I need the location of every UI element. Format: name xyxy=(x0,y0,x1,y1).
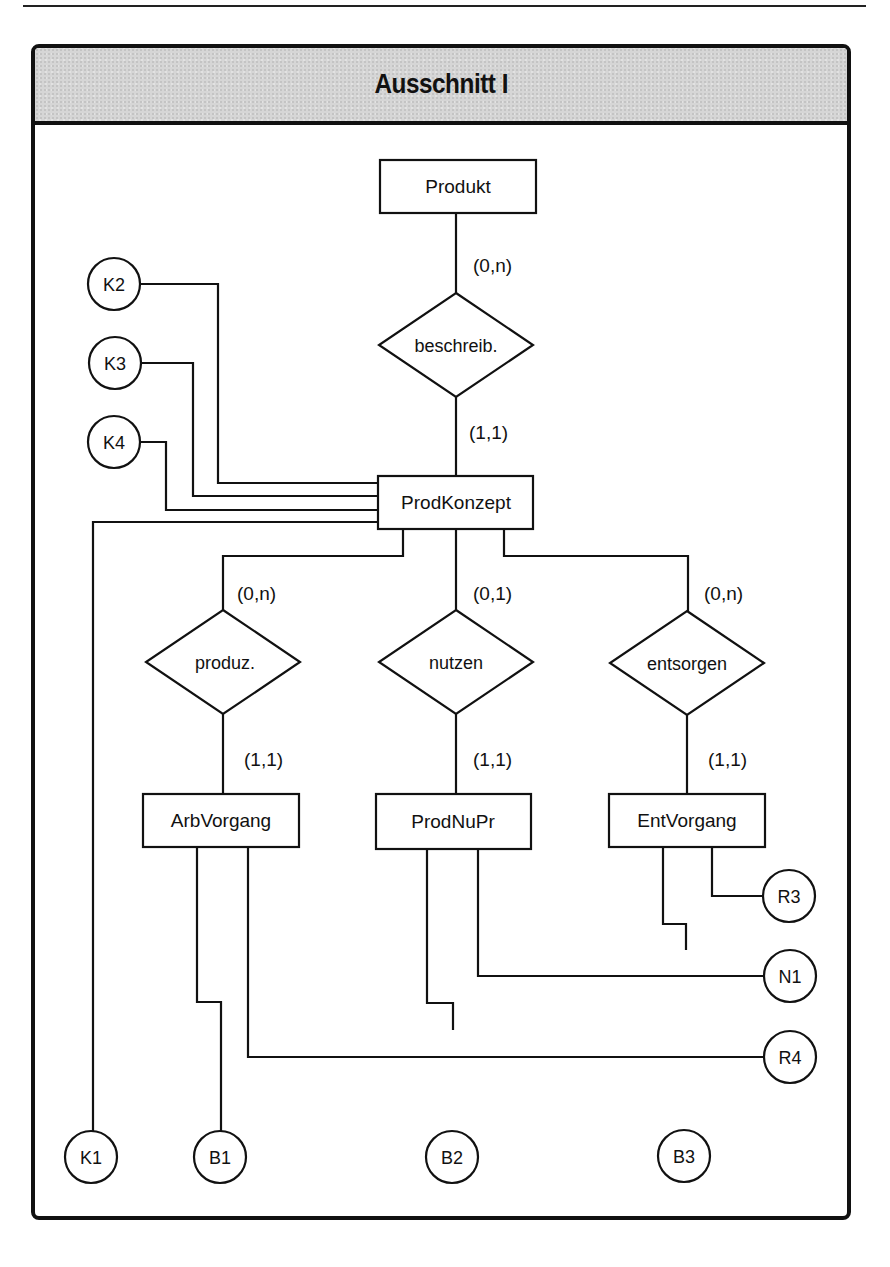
attributes: K1 K2 K3 K4 B1 B2 B3 R3 xyxy=(65,258,816,1183)
relationship-nutzen[interactable]: nutzen xyxy=(379,610,533,714)
cardinality-label: (1,1) xyxy=(244,749,283,770)
connector-b1 xyxy=(197,847,221,1131)
entity-prodkonzept[interactable]: ProdKonzept xyxy=(378,476,533,529)
connector-k4 xyxy=(140,442,378,510)
cardinality-label: (0,n) xyxy=(237,583,276,604)
attribute-label: B2 xyxy=(441,1148,463,1168)
relationship-label: nutzen xyxy=(429,653,483,673)
attribute-label: R4 xyxy=(778,1048,801,1068)
attribute-n1[interactable]: N1 xyxy=(764,950,816,1002)
attribute-label: K3 xyxy=(104,354,126,374)
attribute-k3[interactable]: K3 xyxy=(89,337,141,389)
connector-k2 xyxy=(140,284,378,483)
relationship-produz[interactable]: produz. xyxy=(146,610,300,714)
attribute-label: K2 xyxy=(103,275,125,295)
attribute-b3[interactable]: B3 xyxy=(658,1130,710,1182)
relationship-beschreib[interactable]: beschreib. xyxy=(379,293,533,397)
attribute-b1[interactable]: B1 xyxy=(194,1131,246,1183)
entity-produkt[interactable]: Produkt xyxy=(380,160,536,213)
cardinality-label: (0,n) xyxy=(473,255,512,276)
connector-n1 xyxy=(478,849,764,976)
cardinality-label: (0,n) xyxy=(704,583,743,604)
entity-label: Produkt xyxy=(425,176,491,197)
cardinality-label: (0,1) xyxy=(473,583,512,604)
entity-label: EntVorgang xyxy=(637,810,736,831)
entity-entvorgang[interactable]: EntVorgang xyxy=(609,794,765,847)
cardinality-label: (1,1) xyxy=(473,749,512,770)
attribute-label: B1 xyxy=(209,1148,231,1168)
attribute-r4[interactable]: R4 xyxy=(764,1031,816,1083)
relationship-label: produz. xyxy=(195,653,255,673)
entity-prodnupr[interactable]: ProdNuPr xyxy=(376,794,531,849)
connector-r3 xyxy=(712,847,763,896)
attribute-r3[interactable]: R3 xyxy=(763,870,815,922)
attribute-k4[interactable]: K4 xyxy=(88,416,140,468)
cardinality-label: (1,1) xyxy=(469,422,508,443)
connector-b3 xyxy=(663,847,686,950)
entities: Produkt ProdKonzept ArbVorgang ProdNuPr … xyxy=(143,160,765,849)
entity-label: ArbVorgang xyxy=(171,810,271,831)
connector-b2 xyxy=(427,849,453,1030)
attribute-label: K4 xyxy=(103,433,125,453)
attribute-label: R3 xyxy=(777,887,800,907)
attribute-label: B3 xyxy=(673,1147,695,1167)
entity-label: ProdNuPr xyxy=(411,811,495,832)
relationship-label: beschreib. xyxy=(414,336,497,356)
relationship-entsorgen[interactable]: entsorgen xyxy=(610,611,764,715)
connector-r4 xyxy=(248,847,764,1057)
attribute-k1[interactable]: K1 xyxy=(65,1131,117,1183)
er-diagram: Produkt ProdKonzept ArbVorgang ProdNuPr … xyxy=(0,0,890,1267)
entity-arbvorgang[interactable]: ArbVorgang xyxy=(143,794,299,847)
entity-label: ProdKonzept xyxy=(401,492,512,513)
cardinality-label: (1,1) xyxy=(708,749,747,770)
attribute-label: N1 xyxy=(778,967,801,987)
attribute-k2[interactable]: K2 xyxy=(88,258,140,310)
connector-prodkonzept-entsorgen xyxy=(504,529,688,611)
relationship-label: entsorgen xyxy=(647,654,727,674)
connector-k3 xyxy=(141,363,378,496)
attribute-label: K1 xyxy=(80,1148,102,1168)
attribute-b2[interactable]: B2 xyxy=(426,1131,478,1183)
